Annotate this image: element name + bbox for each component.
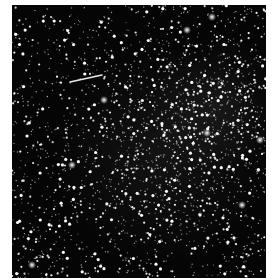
star-field-photo: [12, 5, 266, 278]
star-field-canvas: [12, 5, 266, 278]
